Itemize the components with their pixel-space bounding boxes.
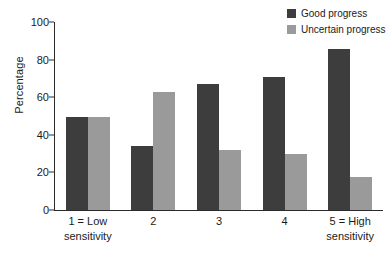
chart-legend: Good progressUncertain progress bbox=[287, 7, 385, 39]
x-axis-tick-label-line: 5 = High bbox=[326, 214, 374, 229]
legend-swatch-icon bbox=[287, 25, 296, 34]
x-axis-tick-label: 3 bbox=[216, 214, 222, 229]
bar-group bbox=[66, 22, 110, 210]
legend-swatch-icon bbox=[287, 9, 296, 18]
bar-group bbox=[197, 22, 241, 210]
x-axis-tick-label-line: 2 bbox=[150, 214, 156, 229]
bar-uncertain-progress bbox=[88, 117, 110, 210]
x-axis-tick-label: 2 bbox=[150, 214, 156, 229]
y-axis-tick-label: 20 bbox=[5, 166, 49, 178]
y-axis-tick-label: 40 bbox=[5, 129, 49, 141]
x-axis-tick-label-line: sensitivity bbox=[64, 229, 112, 244]
x-axis-labels: 1 = Lowsensitivity2345 = Highsensitivity bbox=[55, 214, 383, 256]
bar-chart: Percentage 020406080100 1 = Lowsensitivi… bbox=[0, 0, 388, 257]
y-axis-tick-label: 80 bbox=[5, 54, 49, 66]
x-axis-tick-label: 5 = Highsensitivity bbox=[326, 214, 374, 243]
legend-item: Good progress bbox=[287, 7, 385, 20]
bar-good-progress bbox=[328, 49, 350, 210]
legend-label: Good progress bbox=[301, 8, 367, 19]
y-axis-tick-label: 0 bbox=[5, 204, 49, 216]
bar-group bbox=[131, 22, 175, 210]
x-axis-tick-label-line: 4 bbox=[282, 214, 288, 229]
bar-uncertain-progress bbox=[219, 150, 241, 210]
x-axis-tick-label: 1 = Lowsensitivity bbox=[64, 214, 112, 243]
bar-good-progress bbox=[131, 146, 153, 210]
bar-uncertain-progress bbox=[285, 154, 307, 210]
bar-group bbox=[263, 22, 307, 210]
bar-uncertain-progress bbox=[153, 92, 175, 210]
bar-uncertain-progress bbox=[350, 177, 372, 210]
legend-label: Uncertain progress bbox=[301, 24, 385, 35]
bar-good-progress bbox=[66, 117, 88, 210]
legend-item: Uncertain progress bbox=[287, 23, 385, 36]
y-axis-ticks: 020406080100 bbox=[0, 0, 60, 257]
x-axis-tick-label-line: sensitivity bbox=[326, 229, 374, 244]
bar-good-progress bbox=[263, 77, 285, 210]
bar-group bbox=[328, 22, 372, 210]
y-axis-tick-label: 100 bbox=[5, 16, 49, 28]
y-axis-tick-label: 60 bbox=[5, 91, 49, 103]
bar-good-progress bbox=[197, 84, 219, 210]
x-axis-line bbox=[54, 210, 383, 211]
x-axis-tick-label: 4 bbox=[282, 214, 288, 229]
x-axis-tick-label-line: 3 bbox=[216, 214, 222, 229]
plot-area bbox=[55, 22, 383, 210]
x-axis-tick-label-line: 1 = Low bbox=[64, 214, 112, 229]
